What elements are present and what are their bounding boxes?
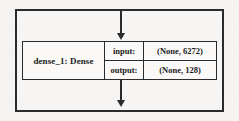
outgoing-arrow-head [117, 100, 125, 107]
outgoing-arrow-line [120, 80, 122, 102]
layer-io-table: input: (None, 6272) output: (None, 128) [105, 42, 216, 79]
layer-io-row-input: input: (None, 6272) [105, 42, 216, 61]
output-value-cell: (None, 128) [144, 61, 216, 80]
input-shape-value: (None, 6272) [157, 46, 203, 56]
output-key-cell: output: [105, 61, 144, 80]
layer-io-row-output: output: (None, 128) [105, 61, 216, 80]
diagram-canvas: dense_1: Dense input: (None, 6272) outpu… [0, 0, 239, 121]
layer-name-cell: dense_1: Dense [23, 42, 105, 79]
incoming-arrow-line [120, 11, 122, 35]
output-shape-value: (None, 128) [159, 65, 201, 75]
input-value-cell: (None, 6272) [144, 42, 216, 60]
layer-name-label: dense_1: Dense [33, 56, 93, 66]
input-key-label: input: [113, 46, 135, 56]
output-key-label: output: [111, 65, 138, 75]
input-key-cell: input: [105, 42, 144, 60]
layer-node-dense-1[interactable]: dense_1: Dense input: (None, 6272) outpu… [22, 41, 217, 80]
incoming-arrow-head [117, 33, 125, 40]
